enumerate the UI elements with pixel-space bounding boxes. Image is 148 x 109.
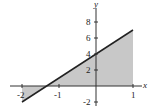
y-tick-label: 2 xyxy=(86,65,91,75)
chart: -2 -1 1 8 6 4 2 -2 x y xyxy=(0,0,148,109)
x-axis-label: x xyxy=(142,80,147,90)
y-tick-label: 4 xyxy=(86,49,91,59)
y-tick-label: 8 xyxy=(86,17,91,27)
plot-area: -2 -1 1 8 6 4 2 -2 x y xyxy=(0,0,148,109)
x-tick-label: -2 xyxy=(17,90,25,100)
y-tick-label: 6 xyxy=(86,33,91,43)
y-axis-label: y xyxy=(93,0,98,9)
y-tick-label: -2 xyxy=(83,97,91,107)
x-tick-label: -1 xyxy=(54,90,62,100)
x-tick-label: 1 xyxy=(131,90,136,100)
